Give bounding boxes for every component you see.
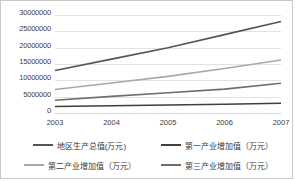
legend-item[interactable]: 第三产业增加值（万元） — [148, 155, 285, 175]
y-axis-tick-label: 0 — [1, 107, 51, 115]
y-axis-tick-label: 5000000 — [1, 91, 51, 99]
chart-legend: 地区生产总值(万元)第一产业增加值（万元）第二产业增加值（万元）第三产业增加值（… — [11, 135, 285, 175]
legend-item-label: 地区生产总值(万元) — [57, 140, 126, 151]
line-marker-icon — [161, 144, 181, 146]
series-line — [55, 22, 281, 71]
plot-area — [55, 15, 281, 113]
x-axis-tick-label: 2003 — [35, 118, 75, 128]
y-axis-tick-label: 15000000 — [1, 58, 51, 66]
legend-item-label: 第一产业增加值（万元） — [185, 140, 273, 151]
axis-baseline — [55, 113, 281, 114]
series-line — [55, 103, 281, 106]
x-axis-tick-labels: 20032004200520062007 — [55, 118, 281, 130]
legend-item-label: 第三产业增加值（万元） — [185, 160, 273, 171]
line-marker-icon — [24, 164, 44, 166]
y-axis-tick-label: 10000000 — [1, 74, 51, 82]
legend-item[interactable]: 地区生产总值(万元) — [11, 135, 148, 155]
x-axis-tick-label: 2005 — [148, 118, 188, 128]
x-axis-tick-label: 2007 — [261, 118, 295, 128]
legend-item[interactable]: 第一产业增加值（万元） — [148, 135, 285, 155]
legend-item[interactable]: 第二产业增加值（万元） — [11, 155, 148, 175]
series-line — [55, 60, 281, 89]
legend-item-label: 第二产业增加值（万元） — [48, 160, 136, 171]
y-axis-tick-label: 20000000 — [1, 42, 51, 50]
x-axis-tick-label: 2006 — [205, 118, 245, 128]
y-axis-tick-label: 30000000 — [1, 9, 51, 17]
y-axis-tick-label: 25000000 — [1, 25, 51, 33]
chart-container: 0500000010000000150000002000000025000000… — [0, 0, 293, 179]
series-lines — [55, 15, 281, 113]
y-axis-tick-labels: 0500000010000000150000002000000025000000… — [1, 7, 51, 119]
x-axis-tick-label: 2004 — [92, 118, 132, 128]
line-marker-icon — [33, 144, 53, 146]
line-marker-icon — [161, 164, 181, 166]
